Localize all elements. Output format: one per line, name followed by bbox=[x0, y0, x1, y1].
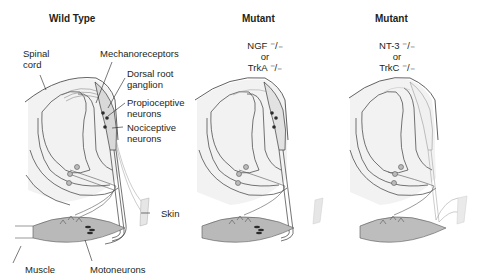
panel-mutant-ngf-trka: Mutant NGF ⁻/₋ or TrkA ⁻/₋ bbox=[185, 0, 345, 279]
label-skin: Skin bbox=[161, 208, 179, 219]
label-dorsal-root-ganglion: Dorsal root ganglion bbox=[127, 68, 173, 90]
label-proprioceptive-neurons: Propioceptive neurons bbox=[127, 97, 185, 119]
panel-wild-type: Wild Type bbox=[0, 0, 200, 279]
label-mechanoreceptors: Mechanoreceptors bbox=[100, 48, 179, 59]
mutant-ngf-diagram bbox=[185, 0, 345, 279]
panel-mutant-nt3-trkc: Mutant NT-3 ⁻/₋ or TrkC ⁻/₋ bbox=[340, 0, 495, 279]
neuron-dot bbox=[101, 111, 105, 115]
neuron-dot bbox=[105, 116, 109, 120]
label-motoneurons: Motoneurons bbox=[90, 264, 145, 275]
skin-shape bbox=[313, 198, 323, 224]
muscle-shape bbox=[33, 217, 125, 242]
mutant-nt3-diagram bbox=[340, 0, 495, 279]
label-muscle: Muscle bbox=[25, 264, 55, 275]
neuron-dot bbox=[103, 125, 107, 129]
skin-shape bbox=[457, 196, 467, 224]
label-nociceptive-neurons: Nociceptive neurons bbox=[127, 122, 176, 144]
skin-shape bbox=[140, 198, 149, 226]
label-spinal-cord: Spinal cord bbox=[23, 48, 49, 70]
